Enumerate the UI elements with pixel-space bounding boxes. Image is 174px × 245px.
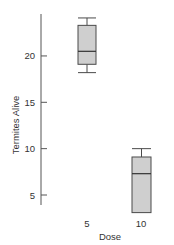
x-tick-label-10: 10 — [136, 218, 147, 229]
box-dose-10 — [132, 149, 151, 213]
y-tick-label: 5 — [30, 190, 35, 201]
boxplot-chart: 5101520 Termites Alive 5 10 Dose — [0, 0, 174, 245]
y-axis-ticks: 5101520 — [24, 50, 47, 200]
y-tick-label: 15 — [24, 97, 35, 108]
x-tick-label-5: 5 — [84, 218, 89, 229]
box-dose-5 — [78, 18, 96, 73]
y-tick-label: 20 — [24, 50, 35, 61]
boxes — [78, 18, 151, 213]
y-tick-label: 10 — [24, 143, 35, 154]
y-axis-label: Termites Alive — [10, 96, 21, 155]
x-axis-label: Dose — [99, 231, 121, 242]
